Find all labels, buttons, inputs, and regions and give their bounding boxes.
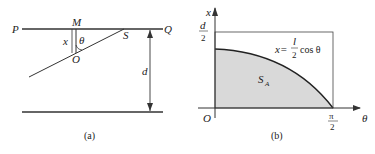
label-p: P <box>11 23 19 35</box>
figure-a: P Q M S O x θ d (a) <box>11 16 172 142</box>
curve-label-num: l <box>293 35 296 47</box>
arrow-up-icon <box>147 30 153 38</box>
figure-b: x θ O d 2 π 2 x= l 2 cos θ S A (b) <box>198 6 368 142</box>
origin-label: O <box>203 112 211 124</box>
arrow-down-icon <box>147 103 153 111</box>
caption-b: (b) <box>271 130 283 142</box>
label-o: O <box>72 53 80 65</box>
figure-canvas: P Q M S O x θ d (a) x θ O d 2 π 2 x= l 2… <box>0 0 375 154</box>
region-label: S <box>258 73 264 85</box>
x-axis-arrow-icon <box>212 7 218 16</box>
label-q: Q <box>164 23 172 35</box>
label-m: M <box>71 16 82 28</box>
x-tick-den: 2 <box>330 122 335 132</box>
label-d: d <box>142 65 148 77</box>
region-label-sub: A <box>264 80 270 88</box>
label-s: S <box>123 29 129 41</box>
x-tick-num: π <box>329 111 334 121</box>
region-sa <box>215 49 333 108</box>
curve-label-rhs: cos θ <box>300 44 321 55</box>
label-x: x <box>62 35 68 47</box>
curve-label-lhs: x= <box>274 43 287 55</box>
y-tick-num: d <box>200 19 206 31</box>
axis-label-theta: θ <box>362 112 368 124</box>
y-tick-den: 2 <box>201 33 206 43</box>
label-theta: θ <box>79 34 85 46</box>
caption-a: (a) <box>84 130 95 142</box>
theta-axis-arrow-icon <box>353 105 361 111</box>
axis-label-x: x <box>205 6 211 18</box>
curve-label-den: 2 <box>292 50 297 60</box>
